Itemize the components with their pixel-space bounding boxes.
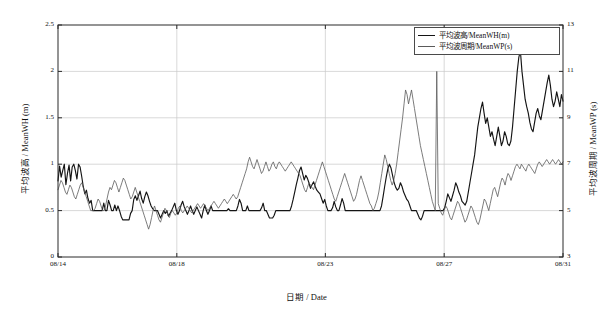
legend-item-meanwh[interactable]: 平均波高/MeanWH(m) bbox=[418, 30, 556, 41]
wave-timeseries-chart: 平均波高 / MeanWH (m) 平均波周期 / MeanWP (s) 日期 … bbox=[0, 0, 613, 323]
y-axis-right-tick: 9 bbox=[567, 113, 591, 121]
y-axis-left-tick: 1 bbox=[30, 159, 54, 167]
y-axis-left-tick: 2 bbox=[30, 66, 54, 74]
x-axis-tick: 08/27 bbox=[424, 260, 464, 268]
legend-label-meanwp: 平均波周期/MeanWP(s) bbox=[439, 41, 512, 52]
x-axis-tick: 08/31 bbox=[543, 260, 583, 268]
y-axis-left-tick: 1.5 bbox=[30, 113, 54, 121]
legend-item-meanwp[interactable]: 平均波周期/MeanWP(s) bbox=[418, 41, 556, 52]
chart-legend: 平均波高/MeanWH(m) 平均波周期/MeanWP(s) bbox=[414, 27, 560, 55]
legend-swatch-meanwh bbox=[418, 35, 435, 36]
x-axis-tick: 08/23 bbox=[305, 260, 345, 268]
y-axis-right-title: 平均波周期 / MeanWP (s) bbox=[586, 79, 598, 219]
x-axis-tick: 08/14 bbox=[38, 260, 78, 268]
y-axis-left-tick: 0.5 bbox=[30, 206, 54, 214]
y-axis-right-tick: 11 bbox=[567, 66, 591, 74]
y-axis-left-tick: 2.5 bbox=[30, 20, 54, 28]
x-axis-tick: 08/18 bbox=[157, 260, 197, 268]
y-axis-left-title: 平均波高 / MeanWH (m) bbox=[18, 79, 30, 219]
y-axis-left-tick: 0 bbox=[30, 252, 54, 260]
y-axis-right-tick: 7 bbox=[567, 159, 591, 167]
x-axis-title: 日期 / Date bbox=[0, 290, 613, 302]
y-axis-right-tick: 13 bbox=[567, 20, 591, 28]
y-axis-right-tick: 5 bbox=[567, 206, 591, 214]
legend-label-meanwh: 平均波高/MeanWH(m) bbox=[439, 30, 509, 41]
legend-swatch-meanwp bbox=[418, 46, 435, 47]
y-axis-right-tick: 3 bbox=[567, 252, 591, 260]
